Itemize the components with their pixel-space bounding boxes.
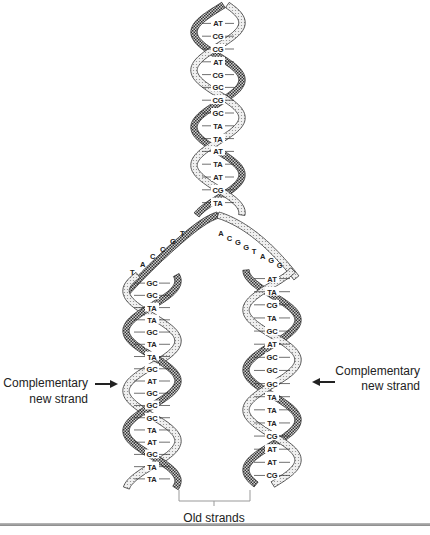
parent-base-pair-label: CG bbox=[212, 45, 223, 54]
left-base-pair-label: GC bbox=[146, 450, 158, 459]
fork-right-base: T bbox=[252, 247, 257, 256]
fork-left-base: C bbox=[160, 245, 166, 254]
fork-left-base: G bbox=[170, 237, 176, 246]
left-callout: Complementary new strand bbox=[3, 376, 118, 406]
left-base-pair-label: TA bbox=[147, 353, 157, 362]
right-base-pair-label: TA bbox=[267, 419, 277, 428]
old-strands-bracket: Old strands bbox=[179, 490, 250, 525]
right-base-pair-label: TA bbox=[267, 314, 277, 323]
fork-right-base: G bbox=[268, 256, 274, 265]
right-base-pair-label: TA bbox=[267, 288, 277, 297]
right-base-pair-label: AT bbox=[267, 340, 277, 349]
right-base-pair-label: AT bbox=[267, 445, 277, 454]
parent-base-pair-label: AT bbox=[213, 58, 223, 67]
fork-left-base: C bbox=[150, 252, 156, 261]
right-base-pair-label: GC bbox=[266, 380, 278, 389]
left-base-pair-label: GC bbox=[146, 414, 158, 423]
left-base-pair-label: GC bbox=[146, 389, 158, 398]
old-strand-fork-right bbox=[217, 212, 299, 280]
left-base-pair-label: GC bbox=[146, 401, 158, 410]
fork-right-base: G bbox=[277, 261, 283, 270]
right-callout-line1: Complementary bbox=[335, 364, 420, 378]
fork-right-base: G bbox=[243, 243, 249, 252]
parent-base-pair-label: TA bbox=[213, 135, 223, 144]
parent-base-pair-label: AT bbox=[213, 19, 223, 28]
left-base-pair-label: TA bbox=[147, 426, 157, 435]
fork-left-base: T bbox=[180, 229, 185, 238]
right-base-pair-label: GC bbox=[266, 327, 278, 336]
right-base-pair-label: AT bbox=[267, 275, 277, 284]
right-base-pair-label: TA bbox=[267, 406, 277, 415]
right-base-pair-label: TA bbox=[267, 393, 277, 402]
left-base-pair-label: TA bbox=[147, 463, 157, 472]
left-base-pair-label: AT bbox=[147, 377, 157, 386]
parent-base-pair-label: AT bbox=[213, 173, 223, 182]
parent-base-pair-label: TA bbox=[213, 160, 223, 169]
fork-left-base: A bbox=[140, 260, 146, 269]
right-base-pair-label: CG bbox=[266, 301, 277, 310]
right-callout: Complementary new strand bbox=[312, 364, 420, 393]
parent-base-pair-label: CG bbox=[212, 96, 223, 105]
left-base-pair-label: TA bbox=[147, 340, 157, 349]
left-base-pair-label: TA bbox=[147, 475, 157, 484]
left-arrow-icon bbox=[312, 378, 335, 386]
fork-left-base: T bbox=[130, 268, 135, 277]
dna-replication-diagram: ATCGCGATCGGCCGGCTATAATTAATCGTATGCCATACGG… bbox=[0, 0, 430, 535]
parent-base-pair-label: CG bbox=[212, 32, 223, 41]
parent-base-pair-label: TA bbox=[213, 199, 223, 208]
left-base-pair-label: GC bbox=[146, 365, 158, 374]
fork-right-base: A bbox=[218, 229, 224, 238]
parent-base-pair-label: GC bbox=[212, 109, 224, 118]
right-base-pair-label: CG bbox=[266, 432, 277, 441]
left-callout-line2: new strand bbox=[29, 392, 88, 406]
left-base-pair-label: GC bbox=[146, 328, 158, 337]
fork-right-base: C bbox=[227, 234, 233, 243]
left-base-pair-label: GC bbox=[146, 279, 158, 288]
parent-base-pair-label: GC bbox=[212, 83, 224, 92]
parent-base-pair-label: CG bbox=[212, 71, 223, 80]
right-base-pair-label: AT bbox=[267, 458, 277, 467]
bottom-divider bbox=[0, 523, 430, 526]
left-base-pair-label: GC bbox=[146, 291, 158, 300]
left-base-pair-label: TA bbox=[147, 316, 157, 325]
fork-right-base: G bbox=[235, 238, 241, 247]
right-base-pair-label: GC bbox=[266, 353, 278, 362]
right-arrow-icon bbox=[95, 380, 118, 388]
old-strand-fork-left bbox=[125, 212, 220, 294]
parent-base-pair-label: TA bbox=[213, 122, 223, 131]
fork-right-base: A bbox=[260, 252, 266, 261]
right-base-pair-label: GC bbox=[266, 366, 278, 375]
parent-base-pair-label: AT bbox=[213, 147, 223, 156]
left-base-pair-label: AT bbox=[147, 438, 157, 447]
right-base-pair-label: CG bbox=[266, 471, 277, 480]
parent-base-pair-label: CG bbox=[212, 186, 223, 195]
right-callout-line2: new strand bbox=[361, 379, 420, 393]
left-callout-line1: Complementary bbox=[3, 376, 88, 390]
left-base-pair-label: TA bbox=[147, 304, 157, 313]
